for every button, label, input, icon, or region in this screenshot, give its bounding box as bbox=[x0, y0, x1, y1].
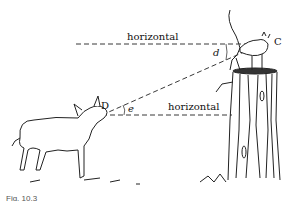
label-horizontal-top: horizontal bbox=[127, 32, 178, 42]
figure-caption: Fig. 10.3 bbox=[6, 194, 37, 201]
angle-arc-e bbox=[123, 105, 125, 115]
tree-stump bbox=[200, 68, 280, 182]
label-point-c: C bbox=[274, 37, 282, 47]
dog bbox=[12, 96, 140, 184]
label-angle-d: d bbox=[213, 48, 219, 58]
label-horizontal-bottom: horizontal bbox=[168, 102, 219, 112]
label-angle-e: e bbox=[128, 104, 134, 114]
label-point-d: D bbox=[101, 101, 109, 111]
cat bbox=[229, 10, 270, 70]
angle-arc-d bbox=[226, 44, 227, 60]
